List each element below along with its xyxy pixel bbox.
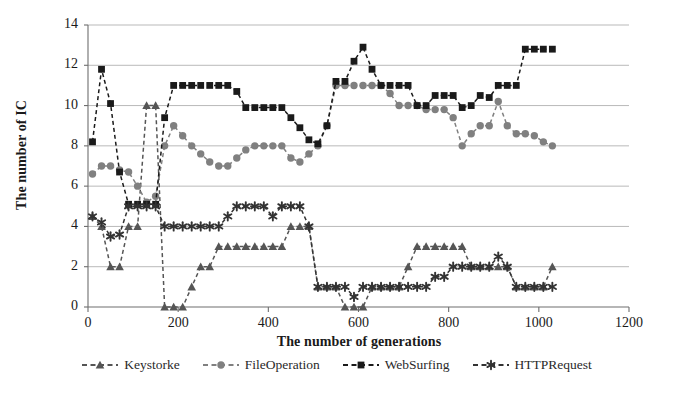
axis-lines bbox=[88, 25, 629, 307]
axis-ticks bbox=[84, 25, 629, 312]
y-tick-label: 10 bbox=[52, 97, 78, 113]
x-tick-label: 400 bbox=[245, 315, 291, 331]
asterisk-marker-icon bbox=[472, 358, 510, 372]
y-tick-label: 6 bbox=[52, 177, 78, 193]
legend-item-websurfing[interactable]: WebSurfing bbox=[342, 358, 450, 372]
x-axis-title: The number of generations bbox=[277, 334, 441, 349]
x-tick-label: 1000 bbox=[516, 315, 562, 331]
legend-label: HTTPRequest bbox=[515, 358, 592, 372]
square-marker-icon bbox=[342, 358, 380, 372]
y-tick-label: 0 bbox=[52, 298, 78, 314]
legend-item-fileoperation[interactable]: FileOperation bbox=[202, 358, 320, 372]
x-axis-title-wrap: The number of generations bbox=[88, 332, 630, 350]
gridlines bbox=[88, 25, 629, 307]
y-tick-label: 12 bbox=[52, 56, 78, 72]
x-tick-label: 1200 bbox=[606, 315, 652, 331]
y-tick-label: 4 bbox=[52, 217, 78, 233]
x-tick-label: 600 bbox=[336, 315, 382, 331]
legend-item-keystorke[interactable]: Keystorke bbox=[81, 358, 179, 372]
data-series-layer bbox=[88, 44, 556, 311]
x-tick-label: 0 bbox=[65, 315, 111, 331]
chart-legend: KeystorkeFileOperationWebSurfingHTTPRequ… bbox=[0, 358, 673, 372]
x-tick-label: 800 bbox=[426, 315, 472, 331]
y-tick-label: 2 bbox=[52, 258, 78, 274]
chart-figure: 14121086420 020040060080010001200 The nu… bbox=[0, 0, 673, 402]
x-tick-label: 200 bbox=[155, 315, 201, 331]
y-axis-title: The number of IC bbox=[14, 100, 30, 210]
triangle-marker-icon bbox=[81, 358, 119, 372]
legend-label: FileOperation bbox=[245, 358, 320, 372]
legend-item-httprequest[interactable]: HTTPRequest bbox=[472, 358, 592, 372]
legend-label: WebSurfing bbox=[385, 358, 450, 372]
y-axis-title-wrap: The number of IC bbox=[8, 0, 36, 310]
legend-label: Keystorke bbox=[124, 358, 179, 372]
y-tick-label: 8 bbox=[52, 137, 78, 153]
y-tick-label: 14 bbox=[52, 16, 78, 32]
circle-marker-icon bbox=[202, 358, 240, 372]
